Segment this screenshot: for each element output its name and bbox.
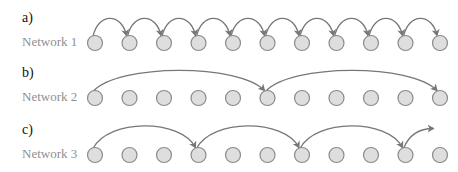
node [260, 91, 275, 106]
node [122, 91, 137, 106]
jump-arrow [197, 126, 300, 149]
node [295, 36, 310, 51]
node [88, 91, 103, 106]
jump-arrow [300, 126, 403, 149]
network-1-row [88, 18, 448, 50]
node [122, 148, 137, 163]
jump-arrow [93, 70, 265, 91]
jump-arrow [300, 18, 334, 36]
network-diagram [0, 0, 458, 172]
node [122, 36, 137, 51]
node [364, 91, 379, 106]
node [226, 36, 241, 51]
node [88, 148, 103, 163]
jump-arrow [93, 126, 196, 149]
node [191, 91, 206, 106]
node [398, 36, 413, 51]
node [433, 36, 448, 51]
node [157, 36, 172, 51]
jump-arrow [162, 18, 196, 36]
network-2-row [88, 70, 448, 105]
node [191, 148, 206, 163]
node [398, 91, 413, 106]
jump-arrow [266, 18, 300, 36]
tail-arrow [404, 129, 434, 149]
node [329, 91, 344, 106]
node [157, 148, 172, 163]
node [295, 91, 310, 106]
jump-arrow [128, 18, 162, 36]
jump-arrow [369, 18, 403, 36]
node [433, 91, 448, 106]
jump-arrow [197, 18, 231, 36]
node [226, 148, 241, 163]
node [191, 36, 206, 51]
node [226, 91, 241, 106]
node [329, 36, 344, 51]
node [364, 148, 379, 163]
node [157, 91, 172, 106]
node [433, 148, 448, 163]
jump-arrow [231, 18, 265, 36]
network-3-row [88, 126, 448, 163]
node [398, 148, 413, 163]
node [88, 36, 103, 51]
node [260, 36, 275, 51]
jump-arrow [335, 18, 369, 36]
jump-arrow [93, 18, 127, 36]
node [364, 36, 379, 51]
node [260, 148, 275, 163]
jump-arrow [266, 70, 438, 91]
node [329, 148, 344, 163]
node [295, 148, 310, 163]
jump-arrow [404, 18, 438, 36]
